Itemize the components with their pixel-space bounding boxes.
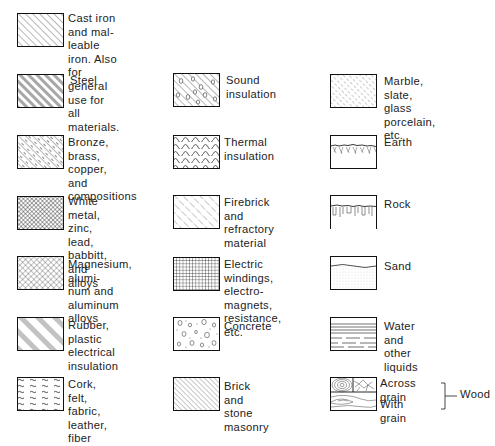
legend-label: Water and other liquids (384, 320, 418, 374)
earth-swatch (330, 135, 377, 169)
legend-label: Cork, felt, fabric, leather, fiber (68, 378, 107, 446)
legend-label: Firebrick and refractory material (224, 196, 274, 250)
grid-swatch (173, 257, 220, 291)
fine-hatch-swatch (173, 377, 220, 411)
dense-crosshatch-swatch (17, 196, 64, 230)
wood-group-label: Wood (460, 388, 490, 402)
double-hatch-swatch (17, 74, 64, 108)
zigzag-swatch (173, 135, 220, 169)
legend-label: Rock (384, 198, 411, 212)
sand-swatch (330, 256, 377, 290)
wood-bracket (440, 380, 460, 412)
aggregate-swatch (173, 317, 220, 351)
legend-label: Rubber, plastic electrical insulation (68, 319, 118, 373)
legend-label: Concrete (224, 320, 272, 334)
rock-swatch (330, 195, 377, 229)
diagonal-hatch-swatch (17, 13, 64, 47)
wood-with-grain-label: With grain (380, 398, 406, 425)
short-dash-hatch-swatch (330, 74, 377, 108)
legend-label: Thermal insulation (224, 136, 274, 163)
legend-label: Earth (384, 136, 412, 150)
water-swatch (330, 317, 377, 351)
legend-label: Bronze, brass, copper, and compositions (68, 136, 137, 204)
dash-dot-hatch-swatch (173, 195, 220, 229)
legend-label: Magnesium, alumi- num and aluminum alloy… (68, 258, 132, 326)
legend-label: Sand (384, 260, 411, 274)
crosshatch-swatch (17, 256, 64, 290)
wood-grain-swatch (330, 377, 377, 411)
grouped-hatch-swatch (17, 317, 64, 351)
wavy-dash-swatch (17, 377, 64, 411)
legend-label: Sound insulation (226, 74, 276, 101)
legend-label: Steel (70, 74, 97, 88)
legend-label: Brick and stone masonry (224, 380, 269, 434)
hatch-with-circles-swatch (173, 73, 220, 107)
dash-hatch-swatch (17, 135, 64, 169)
legend-label: Marble, slate, glass porcelain, etc. (384, 75, 436, 143)
